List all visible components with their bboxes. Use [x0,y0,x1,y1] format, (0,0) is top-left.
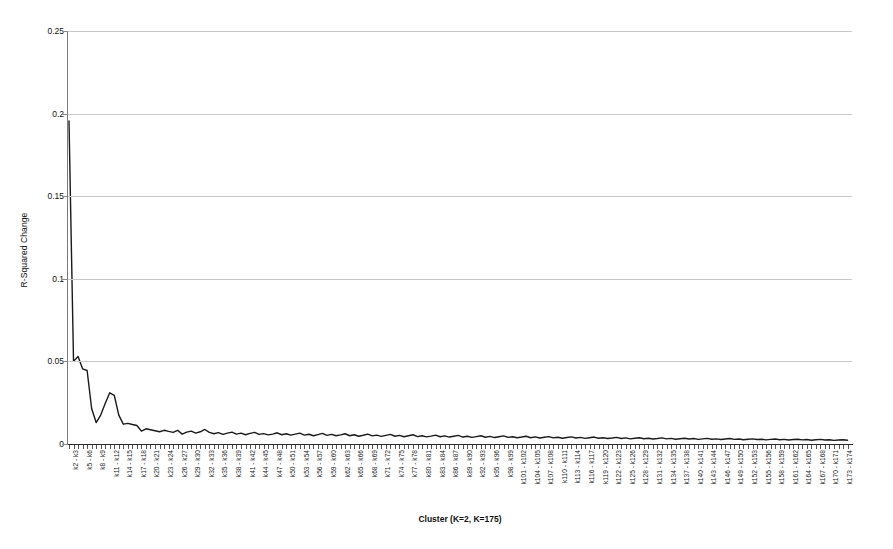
x-axis-tick-label-text: k167 - k168 [819,450,826,484]
x-axis-tick-label-text: k101 - k102 [520,450,527,484]
x-axis-tick-labels: k2 - k3k5 - k6k8 - k9k11 - k12k14 - k15k… [68,450,852,512]
x-axis-tick-label-text: k104 - k105 [534,450,541,484]
x-axis-tick-label: k83 - k84 [439,450,446,477]
x-axis-tick-label: k128 - k129 [642,450,649,484]
x-axis-tickmark [422,445,423,449]
x-axis-tickmark [540,445,541,449]
x-axis-tickmark [685,445,686,449]
x-axis-tickmark [354,445,355,449]
x-axis-tickmark [757,445,758,449]
x-axis-tickmark [816,445,817,449]
x-axis-tick-label: k116 - k117 [588,450,595,483]
x-axis-tick-label: k74 - k75 [398,450,405,477]
x-axis-tick-label-text: k74 - k75 [398,450,405,477]
x-axis-tick-label: k65 - k66 [357,450,364,477]
x-axis-tickmark [304,445,305,449]
gridline [68,31,852,32]
x-axis-tickmark [567,445,568,449]
x-axis-tick-label: k95 - k96 [493,450,500,477]
x-axis-tickmark [137,445,138,449]
x-axis-tickmark [363,445,364,449]
x-axis-tick-label-text: k8 - k9 [99,450,106,470]
x-axis-tick-label-text: k20 - k21 [153,450,160,477]
x-axis-tick-label-text: k95 - k96 [493,450,500,477]
x-axis-tick-label: k164 - k165 [805,450,812,484]
x-axis-tickmark [766,445,767,449]
x-axis-tickmark [119,445,120,449]
x-axis-tick-label: k32 - k33 [208,450,215,477]
x-axis-tickmark [178,445,179,449]
x-axis-tickmark [291,445,292,449]
x-axis-tickmark [721,445,722,449]
x-axis-tick-label: k2 - k3 [72,450,79,470]
x-axis-tickmark [286,445,287,449]
x-axis-tickmark [544,445,545,449]
x-axis-tick-label: k89 - k90 [466,450,473,477]
x-axis-tickmark [332,445,333,449]
x-axis-tick-label: k113 - k114 [574,450,581,483]
x-axis-tick-label-text: k11 - k12 [113,450,120,477]
x-axis-tick-label: k20 - k21 [153,450,160,477]
x-axis-tickmark [653,445,654,449]
x-axis-tick-label: k101 - k102 [520,450,527,484]
x-axis-tick-label-text: k89 - k90 [466,450,473,477]
x-axis-tickmark [141,445,142,449]
y-axis-tickmark [62,114,68,115]
x-axis-tick-label-text: k35 - k36 [221,450,228,477]
x-axis-tickmark [386,445,387,449]
x-axis-tickmark [463,445,464,449]
x-axis-tickmark [114,445,115,449]
x-axis-tick-label: k149 - k150 [737,450,744,484]
x-axis-tickmark [445,445,446,449]
x-axis-tickmark [793,445,794,449]
x-axis-tick-label-text: k80 - k81 [425,450,432,477]
x-axis-tick-label-text: k29 - k30 [194,450,201,477]
x-axis-tickmark [848,445,849,449]
x-axis-tickmark [508,445,509,449]
x-axis-tick-label: k104 - k105 [534,450,541,484]
x-axis-tickmark [762,445,763,449]
x-axis-tickmark [712,445,713,449]
x-axis-tickmark [671,445,672,449]
x-axis-tick-label: k59 - k60 [330,450,337,477]
x-axis-tick-label-text: k23 - k24 [167,450,174,477]
y-axis-tick-label: 0.2 [24,109,64,119]
x-axis-tickmark [110,445,111,449]
x-axis-tickmark [753,445,754,449]
x-axis-tickmark [467,445,468,449]
x-axis-tick-label-text: k77 - k78 [411,450,418,477]
x-axis-tickmark [490,445,491,449]
x-axis-tick-label-text: k119 - k120 [602,450,609,484]
x-axis-tick-label-text: k65 - k66 [357,450,364,477]
x-axis-tick-label-text: k83 - k84 [439,450,446,477]
x-axis-tickmark [739,445,740,449]
x-axis-tickmark [576,445,577,449]
y-axis-tick-label: 0.25 [24,26,64,36]
x-axis-tickmark [639,445,640,449]
plot-area [68,31,852,444]
x-axis-tickmark [780,445,781,449]
x-axis-tickmark [703,445,704,449]
x-axis-tickmark [196,445,197,449]
x-axis-tickmark [513,445,514,449]
x-axis-tickmark [748,445,749,449]
gridline [68,361,852,362]
x-axis-tick-label-text: k116 - k117 [588,450,595,483]
x-axis-tickmark [594,445,595,449]
x-axis-tickmark [608,445,609,449]
x-axis-tickmark [132,445,133,449]
x-axis-tickmark [214,445,215,449]
x-axis-tick-label-text: k26 - k27 [181,450,188,477]
x-axis-tickmark [359,445,360,449]
x-axis-tickmark [96,445,97,449]
x-axis-tickmark [485,445,486,449]
x-axis-tickmark [155,445,156,449]
x-axis-tick-label-text: k137 - k138 [683,450,690,484]
x-axis-tickmark [472,445,473,449]
x-axis-tickmark [377,445,378,449]
x-axis-tickmark [408,445,409,449]
x-axis-tick-label: k125 - k126 [629,450,636,484]
x-axis-tickmark [74,445,75,449]
x-axis-tick-label: k38 - k39 [235,450,242,477]
x-axis-tickmark [83,445,84,449]
